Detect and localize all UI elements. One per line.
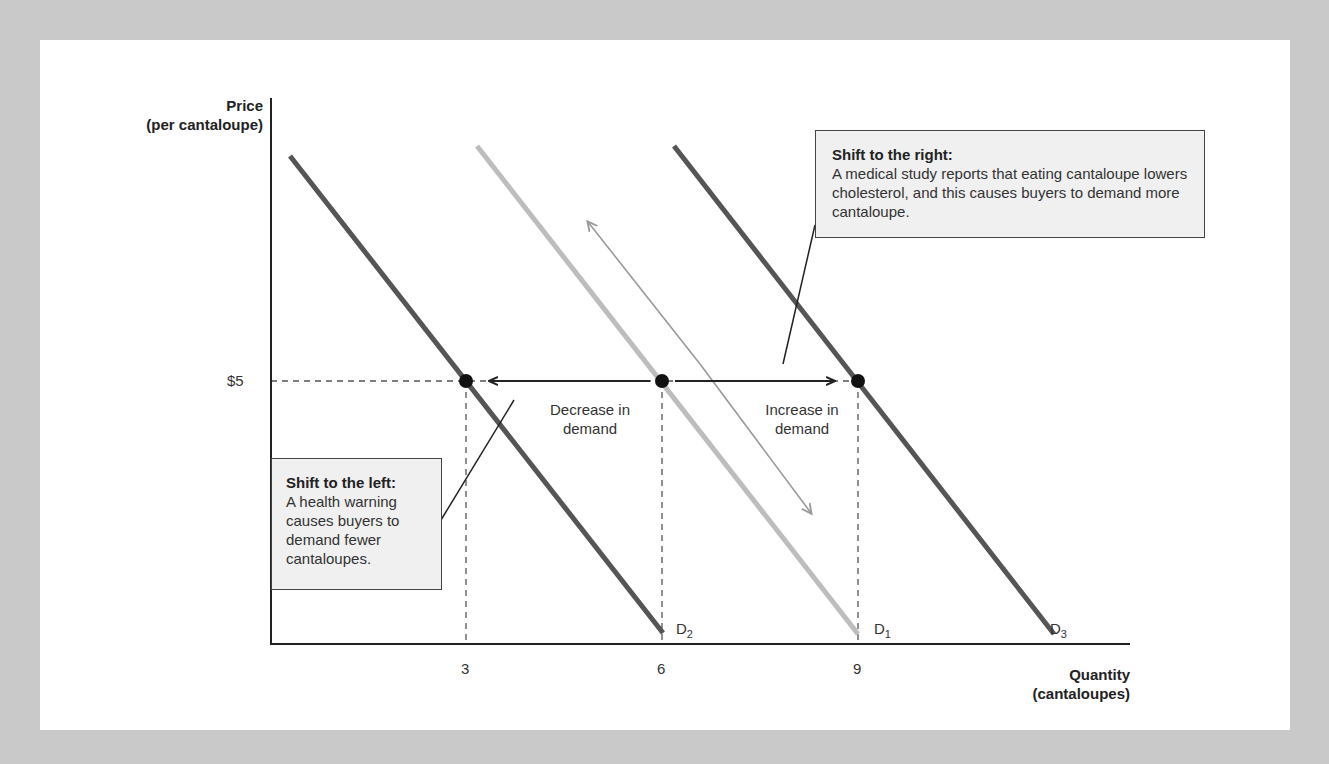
increase-label: Increase in demand bbox=[742, 400, 862, 438]
y-tick-5: $5 bbox=[227, 372, 244, 389]
x-axis-label: Quantity (cantaloupes) bbox=[1010, 665, 1130, 703]
demand-curve-d1 bbox=[477, 146, 858, 634]
shift-right-title: Shift to the right: bbox=[832, 145, 1188, 164]
shift-left-title: Shift to the left: bbox=[286, 473, 427, 492]
shift-double-arrow bbox=[588, 222, 700, 364]
point-d1 bbox=[655, 374, 669, 388]
y-axis-label-line2: (per cantaloupe) bbox=[146, 115, 263, 134]
point-d3 bbox=[851, 374, 865, 388]
curve-label-d3: D3 bbox=[1050, 620, 1067, 640]
curve-label-d1: D1 bbox=[874, 620, 891, 640]
x-axis-label-line1: Quantity bbox=[1010, 665, 1130, 684]
x-tick-3: 3 bbox=[461, 660, 469, 677]
y-axis-label: Price (per cantaloupe) bbox=[146, 96, 263, 134]
shift-right-body: A medical study reports that eating cant… bbox=[832, 165, 1187, 220]
x-tick-6: 6 bbox=[657, 660, 665, 677]
shift-right-box: Shift to the right: A medical study repo… bbox=[815, 130, 1205, 238]
left-box-leader bbox=[441, 400, 514, 520]
x-tick-9: 9 bbox=[853, 660, 861, 677]
x-axis-label-line2: (cantaloupes) bbox=[1010, 684, 1130, 703]
decrease-label: Decrease in demand bbox=[530, 400, 650, 438]
shift-left-body: A health warning causes buyers to demand… bbox=[286, 493, 399, 567]
curve-label-d2: D2 bbox=[676, 620, 693, 640]
y-axis-label-line1: Price bbox=[146, 96, 263, 115]
point-d2 bbox=[459, 374, 473, 388]
shift-left-box: Shift to the left: A health warning caus… bbox=[271, 458, 442, 590]
